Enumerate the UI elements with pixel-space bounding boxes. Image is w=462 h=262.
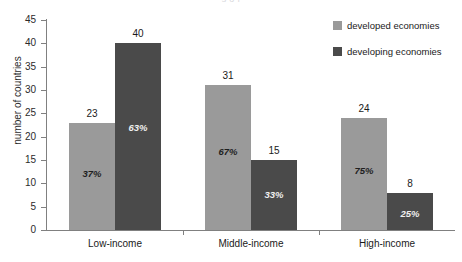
y-axis-tick <box>41 67 47 68</box>
bar-value-label: 8 <box>387 178 433 189</box>
legend-swatch-icon-developed <box>333 21 342 30</box>
y-axis-tick <box>41 20 47 21</box>
y-axis-tick-label: 0 <box>0 225 36 235</box>
bar-percent-label: 33% <box>251 189 297 200</box>
y-axis-tick-label: 10 <box>0 178 36 188</box>
y-axis-tick <box>41 207 47 208</box>
y-axis-tick-label: 20 <box>0 132 36 142</box>
y-axis-tick-label: 45 <box>0 15 36 25</box>
bar-value-label: 40 <box>115 28 161 39</box>
bar-value-label: 24 <box>341 103 387 114</box>
legend-swatch-icon-developing <box>333 47 342 56</box>
y-axis-tick <box>41 160 47 161</box>
y-axis-tick <box>41 183 47 184</box>
bar-percent-label: 67% <box>205 146 251 157</box>
bar-percent-label: 25% <box>387 208 433 219</box>
bar-percent-label: 63% <box>115 122 161 133</box>
y-axis-tick-label: 25 <box>0 108 36 118</box>
legend: developed economies developing economies <box>333 16 442 68</box>
y-axis-line <box>46 19 47 231</box>
bar-percent-label: 75% <box>341 165 387 176</box>
y-axis-tick-label: 40 <box>0 38 36 48</box>
legend-label-developing: developing economies <box>347 46 442 57</box>
x-axis-line <box>46 230 455 231</box>
y-axis-tick <box>41 113 47 114</box>
bar-value-label: 15 <box>251 145 297 156</box>
x-axis-separator <box>183 230 184 235</box>
x-axis-separator <box>319 230 320 235</box>
y-axis-tick <box>41 230 47 231</box>
bar-percent-label: 37% <box>69 168 115 179</box>
legend-item-developing[interactable]: developing economies <box>333 42 442 60</box>
bar-value-label: 31 <box>205 70 251 81</box>
bar-chart: s o f number of countries 05101520253035… <box>0 0 462 262</box>
y-axis-tick-label: 5 <box>0 202 36 212</box>
y-axis-tick-label: 35 <box>0 62 36 72</box>
legend-item-developed[interactable]: developed economies <box>333 16 442 34</box>
y-axis-tick <box>41 90 47 91</box>
bar-value-label: 23 <box>69 108 115 119</box>
x-axis-label-low-income: Low-income <box>47 238 183 249</box>
bar-developing-low-income[interactable] <box>115 43 161 230</box>
y-axis-tick-label: 30 <box>0 85 36 95</box>
bar-developed-middle-income[interactable] <box>205 85 251 230</box>
x-axis-label-middle-income: Middle-income <box>183 238 319 249</box>
x-axis-label-high-income: High-income <box>319 238 455 249</box>
cutoff-title-text: s o f <box>0 0 462 6</box>
legend-label-developed: developed economies <box>347 20 439 31</box>
y-axis-tick <box>41 43 47 44</box>
y-axis-tick-label: 15 <box>0 155 36 165</box>
y-axis-tick <box>41 137 47 138</box>
